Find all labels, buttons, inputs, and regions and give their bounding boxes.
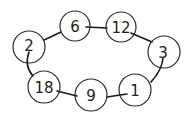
node-1: 1 [119, 74, 151, 106]
node-6: 6 [60, 11, 90, 41]
node-9: 9 [75, 79, 107, 111]
edge-2-6 [44, 32, 61, 40]
edge-1-9 [107, 94, 127, 97]
node-label: 2 [24, 37, 34, 55]
node-label: 6 [70, 18, 80, 36]
edge-18-2 [27, 52, 33, 76]
node-label: 3 [158, 44, 168, 62]
node-12: 12 [106, 12, 136, 42]
edge-6-12 [86, 27, 107, 28]
node-label: 1 [130, 82, 140, 100]
node-label: 12 [111, 19, 130, 37]
node-3: 3 [148, 36, 180, 68]
edge-9-18 [57, 91, 77, 96]
diagram-canvas: 2 6 12 3 1 9 18 [0, 0, 191, 123]
node-2: 2 [13, 31, 45, 63]
cycle-diagram: 2 6 12 3 1 9 18 [0, 0, 191, 123]
node-18: 18 [28, 71, 60, 103]
node-label: 9 [86, 87, 96, 105]
node-label: 18 [34, 79, 53, 97]
